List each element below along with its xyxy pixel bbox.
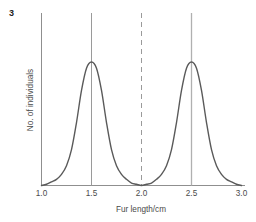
x-axis-tick-labels: 1.0 1.5 2.0 2.5 3.0 (36, 189, 248, 198)
x-axis-title: Fur length/cm (116, 205, 166, 214)
y-axis-title: No. of individuals (26, 69, 35, 131)
x-tick-label: 1.5 (86, 189, 98, 198)
x-tick-label: 2.5 (186, 189, 198, 198)
x-tick-label: 1.0 (36, 189, 48, 198)
figure-container: 3 1.0 1.5 2.0 2.5 3.0 Fur length/cm No. … (0, 0, 256, 222)
x-tick-label: 2.0 (136, 189, 148, 198)
chart-annotation-lines (92, 13, 192, 186)
x-tick-label: 3.0 (236, 189, 248, 198)
chart-plot: 1.0 1.5 2.0 2.5 3.0 Fur length/cm No. of… (0, 0, 256, 222)
